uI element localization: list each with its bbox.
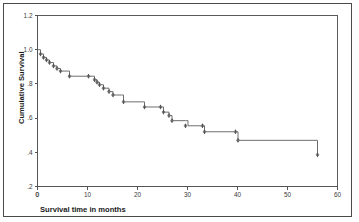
y-tick-label: .8 [27,80,33,87]
survival-curve-figure: 0102030405060 .2.4.6.81.01.20 Survival t… [0,0,359,222]
y-tick-label: 1.2 [24,12,33,19]
y-axis-label: Cumulative Survival [17,51,26,124]
censoring-marks [39,52,319,157]
x-tick-label: 30 [184,191,192,198]
x-tick-label: 20 [134,191,142,198]
x-tick-label: 10 [84,191,92,198]
y-tick-label: .6 [27,114,33,121]
x-tick-label: 50 [284,191,292,198]
origin-label: 0 [35,191,39,198]
x-tick-label: 40 [234,191,242,198]
survival-chart-plot: 0102030405060 .2.4.6.81.01.20 Survival t… [0,0,359,222]
survival-step-line [38,50,318,155]
y-tick-label: .4 [27,149,33,156]
x-axis-ticks: 0102030405060 [36,187,342,199]
plot-frame [38,16,338,187]
x-axis-label: Survival time in months [40,205,126,214]
km-step-curve [38,50,318,155]
x-tick-label: 60 [334,191,342,198]
y-tick-label: .2 [27,183,33,190]
